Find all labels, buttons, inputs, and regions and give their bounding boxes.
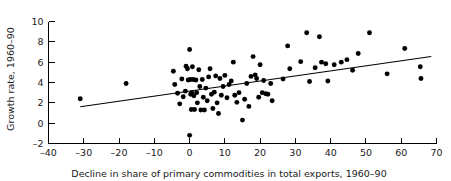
y-axis-tick-marks bbox=[49, 22, 55, 144]
data-point bbox=[215, 100, 220, 105]
x-tick-label: 10 bbox=[219, 147, 231, 158]
data-point bbox=[385, 71, 390, 76]
data-point bbox=[402, 46, 407, 51]
x-tick-label: 70 bbox=[430, 147, 442, 158]
data-point bbox=[285, 43, 290, 48]
data-point bbox=[193, 78, 198, 83]
data-point bbox=[187, 47, 192, 52]
data-point bbox=[205, 98, 210, 103]
data-point bbox=[213, 73, 218, 78]
data-point bbox=[201, 95, 206, 100]
data-point bbox=[313, 65, 318, 70]
data-point bbox=[202, 108, 207, 113]
y-tick-label: 6 bbox=[37, 57, 43, 68]
data-point bbox=[177, 101, 182, 106]
data-point bbox=[344, 57, 349, 62]
data-point bbox=[323, 61, 328, 66]
y-axis-title: Growth rate, 1960–90 bbox=[5, 27, 16, 131]
data-point bbox=[217, 76, 222, 81]
x-axis-title: Decline in share of primary commodities … bbox=[71, 168, 386, 179]
data-point bbox=[222, 73, 227, 78]
x-tick-label: 20 bbox=[254, 147, 266, 158]
scatter-plot-canvas: –40–30–20–10010203040506070 –20246810 De… bbox=[0, 0, 451, 181]
data-point bbox=[208, 66, 213, 71]
data-point bbox=[254, 76, 259, 81]
x-tick-label: –20 bbox=[111, 147, 128, 158]
data-point bbox=[171, 69, 176, 74]
x-tick-label: 40 bbox=[325, 147, 337, 158]
y-tick-label: 0 bbox=[37, 118, 43, 129]
x-tick-label: 30 bbox=[289, 147, 301, 158]
data-point bbox=[319, 60, 324, 65]
data-point bbox=[234, 100, 239, 105]
data-point bbox=[229, 79, 234, 84]
data-point bbox=[325, 79, 330, 84]
data-point bbox=[200, 77, 205, 82]
data-point bbox=[197, 84, 202, 89]
data-point bbox=[298, 59, 303, 64]
data-point bbox=[225, 95, 230, 100]
data-point bbox=[317, 34, 322, 39]
axis-spines bbox=[49, 22, 437, 144]
data-point bbox=[339, 60, 344, 65]
data-point bbox=[265, 92, 270, 97]
data-point bbox=[195, 100, 200, 105]
y-tick-label: –2 bbox=[33, 138, 44, 149]
data-point bbox=[179, 76, 184, 81]
data-point bbox=[287, 66, 292, 71]
data-point bbox=[206, 74, 211, 79]
trend-line bbox=[80, 57, 431, 107]
data-point bbox=[219, 93, 224, 98]
y-tick-label: 8 bbox=[37, 36, 43, 47]
data-point bbox=[231, 60, 236, 65]
data-point bbox=[258, 62, 263, 67]
x-tick-label: 0 bbox=[187, 147, 193, 158]
axis-frame bbox=[49, 22, 437, 144]
data-point bbox=[419, 76, 424, 81]
data-point bbox=[418, 64, 423, 69]
data-point bbox=[256, 95, 261, 100]
data-point bbox=[242, 97, 247, 102]
x-tick-label: 60 bbox=[395, 147, 407, 158]
data-point bbox=[356, 51, 361, 56]
data-point bbox=[251, 54, 256, 59]
data-point bbox=[78, 96, 83, 101]
data-point bbox=[249, 74, 254, 79]
trend-line-segment bbox=[80, 57, 431, 107]
data-points-layer bbox=[78, 30, 424, 138]
data-point bbox=[212, 90, 217, 95]
y-axis-tick-labels: –20246810 bbox=[31, 16, 43, 149]
data-point bbox=[190, 64, 195, 69]
y-tick-label: 4 bbox=[37, 77, 43, 88]
data-point bbox=[172, 82, 177, 87]
data-point bbox=[268, 81, 273, 86]
data-point bbox=[270, 98, 275, 103]
data-point bbox=[192, 107, 197, 112]
data-point bbox=[240, 118, 245, 123]
y-tick-label: 2 bbox=[37, 97, 43, 108]
data-point bbox=[185, 66, 190, 71]
x-tick-label: –30 bbox=[75, 147, 92, 158]
data-point bbox=[246, 104, 251, 109]
x-tick-label: –10 bbox=[146, 147, 163, 158]
x-tick-label: 50 bbox=[360, 147, 372, 158]
data-point bbox=[196, 67, 201, 72]
data-point bbox=[332, 62, 337, 67]
data-point bbox=[124, 81, 129, 86]
x-axis-tick-marks bbox=[49, 138, 437, 144]
data-point bbox=[304, 30, 309, 35]
data-point bbox=[232, 93, 237, 98]
y-tick-label: 10 bbox=[31, 16, 43, 27]
data-point bbox=[194, 90, 199, 95]
x-axis-tick-labels: –40–30–20–10010203040506070 bbox=[40, 147, 442, 158]
data-point bbox=[210, 106, 215, 111]
data-point bbox=[367, 30, 372, 35]
data-point bbox=[187, 133, 192, 138]
data-point bbox=[181, 94, 186, 99]
scatter-plot-figure: –40–30–20–10010203040506070 –20246810 De… bbox=[0, 0, 451, 181]
data-point bbox=[216, 111, 221, 116]
data-point bbox=[307, 79, 312, 84]
data-point bbox=[237, 90, 242, 95]
